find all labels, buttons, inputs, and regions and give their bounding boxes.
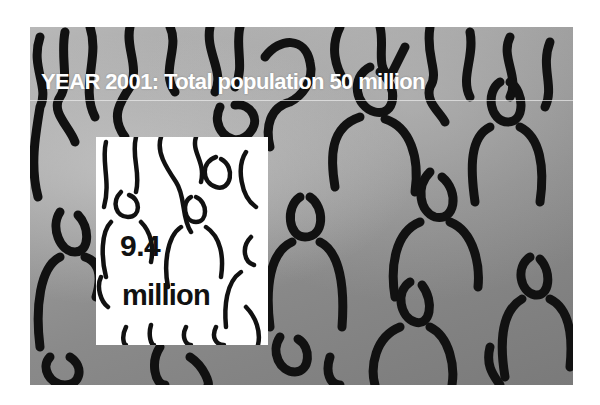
headline-title: YEAR 2001: Total population 50 million <box>41 69 425 95</box>
inset-box: 9.4 million <box>96 137 268 345</box>
title-divider <box>30 100 573 101</box>
inset-value: 9.4 <box>120 229 160 263</box>
inset-unit: million <box>122 279 210 312</box>
illustration-panel: YEAR 2001: Total population 50 million 9… <box>30 27 573 385</box>
